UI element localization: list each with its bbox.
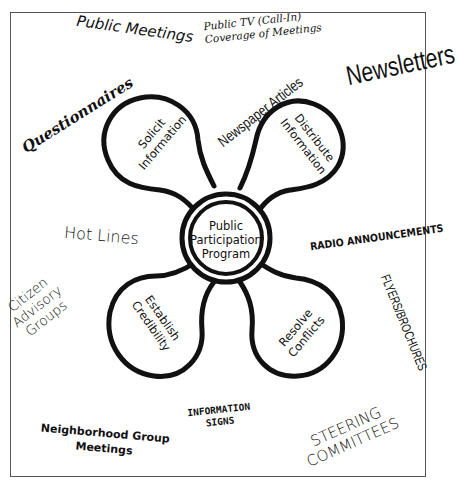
center-line-2: Participation xyxy=(186,233,266,247)
center-line-1: Public xyxy=(186,219,266,233)
center-label: Public Participation Program xyxy=(186,219,266,261)
center-line-3: Program xyxy=(186,247,266,261)
